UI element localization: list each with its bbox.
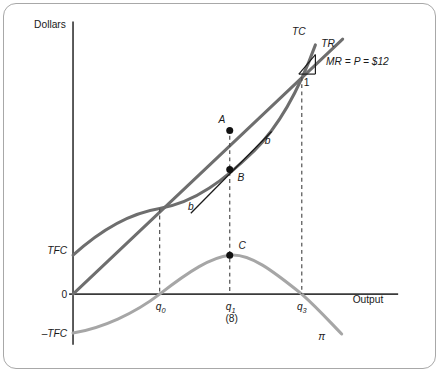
tc-curve	[73, 45, 315, 255]
svg-text:q0: q0	[156, 301, 167, 315]
point-label-b: B	[238, 172, 245, 183]
figure-frame: Dollars Output TFC 0 –TFC q0 q1 (8) q3 T…	[3, 3, 436, 369]
x-tick-q1: q1 (8)	[225, 301, 238, 325]
point-marker-a	[226, 127, 233, 134]
tangent-label-upper: b	[265, 135, 271, 146]
point-label-c: C	[239, 240, 247, 251]
point-marker-c	[226, 252, 233, 259]
economics-chart: Dollars Output TFC 0 –TFC q0 q1 (8) q3 T…	[4, 4, 437, 370]
x-tick-q3: q3	[297, 301, 308, 315]
point-marker-b	[226, 166, 233, 173]
profit-curve-label: π	[318, 331, 325, 342]
x-tick-q0-sub: 0	[161, 306, 166, 315]
y-tick-tfc: TFC	[47, 245, 67, 256]
y-axis-label: Dollars	[34, 19, 66, 30]
slope-run-label: 1	[304, 77, 310, 88]
mr-price-annotation: MR = P = $12	[326, 56, 389, 67]
y-tick-zero: 0	[62, 289, 68, 300]
tangent-label-lower: b	[188, 201, 194, 212]
point-label-a: A	[218, 114, 226, 125]
y-tick-negative-tfc: –TFC	[41, 328, 68, 339]
tc-curve-label: TC	[292, 26, 306, 37]
dashed-guides-group	[160, 77, 302, 294]
svg-text:q3: q3	[297, 301, 308, 315]
x-tick-q3-sub: 3	[303, 306, 308, 315]
x-tick-q1-note: (8)	[225, 313, 238, 324]
x-axis-label: Output	[353, 294, 384, 305]
axes-group	[69, 22, 398, 345]
x-tick-q0: q0	[156, 301, 167, 315]
tr-curve-label: TR	[321, 38, 335, 49]
